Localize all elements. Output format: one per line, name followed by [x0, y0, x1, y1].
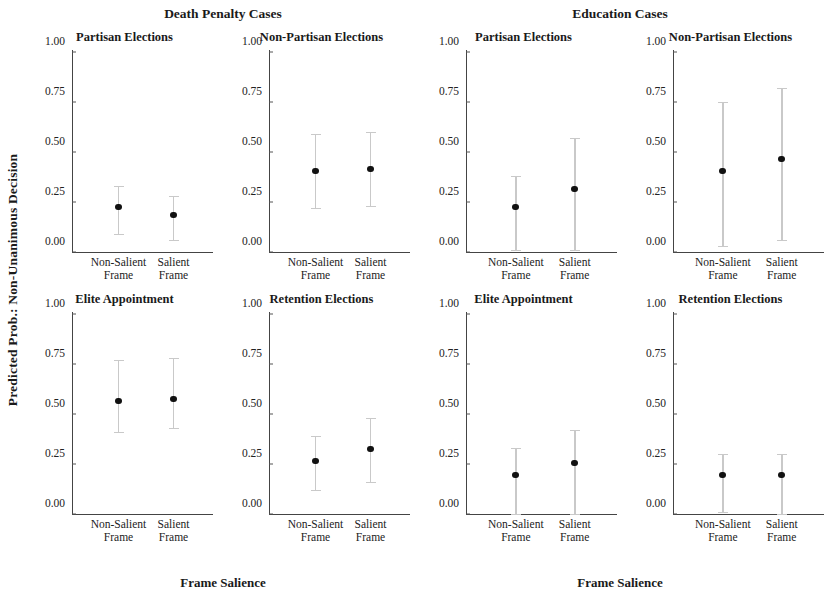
- y-tick-mark: [673, 364, 677, 365]
- y-tick-mark: [673, 252, 677, 253]
- y-tick-label: 0.50: [646, 135, 673, 147]
- x-tick-label: Salient Frame: [761, 518, 803, 543]
- error-bar-cap-lower: [169, 240, 179, 241]
- y-tick-label: 0.75: [45, 347, 72, 359]
- error-bar: [781, 455, 782, 515]
- y-tick-label: 0.50: [45, 397, 72, 409]
- y-tick-label: 0.25: [242, 185, 269, 197]
- y-tick-mark: [466, 514, 470, 515]
- y-tick-label: 0.75: [646, 347, 673, 359]
- x-axis-line: [72, 252, 213, 253]
- y-tick-label: 0.00: [45, 235, 72, 247]
- y-tick-label: 0.25: [646, 447, 673, 459]
- error-bar-cap-upper: [169, 196, 179, 197]
- chart-group-education: Education Cases Partisan Elections1.000.…: [420, 0, 834, 595]
- error-bar: [574, 139, 575, 251]
- y-tick-mark: [72, 364, 76, 365]
- plot-area: 1.000.750.500.250.00: [269, 53, 410, 253]
- y-tick-label: 0.50: [439, 397, 466, 409]
- data-point-marker: [170, 212, 177, 219]
- y-tick-mark: [673, 152, 677, 153]
- error-bar-cap-lower: [114, 234, 124, 235]
- y-tick-label: 0.75: [45, 85, 72, 97]
- error-bar-cap-upper: [718, 102, 728, 103]
- error-bar-cap-upper: [511, 176, 521, 177]
- x-tick-labels: Non-Salient FrameSalient Frame: [269, 518, 410, 558]
- error-bar-cap-lower: [777, 514, 787, 515]
- data-point-marker: [778, 472, 785, 479]
- y-tick-label: 1.00: [242, 297, 269, 309]
- y-tick-label: 0.25: [439, 185, 466, 197]
- data-point-marker: [512, 472, 519, 479]
- error-bar-cap-upper: [777, 454, 787, 455]
- data-point-marker: [571, 460, 578, 467]
- y-tick-mark: [466, 364, 470, 365]
- error-bar-cap-lower: [570, 514, 580, 515]
- y-tick-mark: [269, 364, 273, 365]
- chart-group-death-penalty: Death Penalty Cases Partisan Elections1.…: [26, 0, 420, 595]
- plot-area: 1.000.750.500.250.00: [466, 53, 617, 253]
- y-tick-label: 0.75: [439, 85, 466, 97]
- y-tick-label: 0.00: [242, 497, 269, 509]
- panel-retention-elections: Retention Elections1.000.750.500.250.00N…: [223, 292, 420, 554]
- group-title-education: Education Cases: [420, 6, 834, 22]
- data-point-marker: [170, 396, 177, 403]
- y-tick-label: 0.50: [242, 397, 269, 409]
- x-axis-line: [466, 252, 617, 253]
- x-tick-label: Non-Salient Frame: [288, 518, 344, 543]
- x-tick-label: Salient Frame: [554, 256, 596, 281]
- y-tick-mark: [72, 252, 76, 253]
- y-tick-mark: [673, 514, 677, 515]
- y-tick-label: 1.00: [646, 35, 673, 47]
- x-axis-line: [72, 514, 213, 515]
- error-bar-cap-upper: [114, 360, 124, 361]
- y-tick-label: 0.00: [646, 497, 673, 509]
- y-tick-label: 0.00: [439, 235, 466, 247]
- x-axis-title-education: Frame Salience: [420, 575, 834, 591]
- error-bar-cap-lower: [366, 206, 376, 207]
- x-tick-labels: Non-Salient FrameSalient Frame: [673, 256, 824, 296]
- y-tick-label: 0.50: [646, 397, 673, 409]
- y-tick-mark: [673, 314, 677, 315]
- error-bar-cap-lower: [114, 432, 124, 433]
- panel-elite-appointment: Elite Appointment1.000.750.500.250.00Non…: [420, 292, 627, 554]
- error-bar-cap-upper: [777, 88, 787, 89]
- error-bar-cap-upper: [718, 454, 728, 455]
- error-bar-cap-lower: [169, 428, 179, 429]
- x-tick-label: Salient Frame: [154, 518, 193, 543]
- y-tick-label: 0.25: [646, 185, 673, 197]
- y-tick-label: 0.75: [242, 347, 269, 359]
- y-tick-mark: [673, 52, 677, 53]
- x-tick-label: Non-Salient Frame: [488, 256, 544, 281]
- error-bar-cap-upper: [311, 436, 321, 437]
- data-point-marker: [719, 472, 726, 479]
- x-tick-label: Non-Salient Frame: [288, 256, 344, 281]
- data-point-marker: [312, 458, 319, 465]
- data-point-marker: [115, 398, 122, 405]
- y-tick-mark: [72, 464, 76, 465]
- y-tick-mark: [269, 314, 273, 315]
- error-bar: [722, 455, 723, 513]
- plot-area: 1.000.750.500.250.00: [72, 315, 213, 515]
- y-tick-label: 1.00: [45, 297, 72, 309]
- error-bar-cap-upper: [311, 134, 321, 135]
- error-bar-cap-upper: [114, 186, 124, 187]
- y-tick-label: 0.25: [45, 185, 72, 197]
- y-tick-mark: [269, 464, 273, 465]
- y-axis-label: Predicted Prob.: Non-Unanimous Decision: [0, 0, 26, 560]
- y-tick-mark: [466, 252, 470, 253]
- error-bar-cap-upper: [366, 418, 376, 419]
- error-bar-cap-upper: [511, 448, 521, 449]
- y-tick-label: 0.00: [242, 235, 269, 247]
- error-bar-cap-lower: [777, 240, 787, 241]
- error-bar-cap-upper: [169, 358, 179, 359]
- y-tick-mark: [466, 414, 470, 415]
- error-bar-cap-lower: [366, 482, 376, 483]
- error-bar: [722, 103, 723, 247]
- panel-non-partisan-elections: Non-Partisan Elections1.000.750.500.250.…: [627, 30, 834, 292]
- y-tick-mark: [72, 514, 76, 515]
- y-tick-label: 1.00: [439, 35, 466, 47]
- panel-retention-elections: Retention Elections1.000.750.500.250.00N…: [627, 292, 834, 554]
- y-tick-label: 1.00: [439, 297, 466, 309]
- y-tick-label: 0.25: [439, 447, 466, 459]
